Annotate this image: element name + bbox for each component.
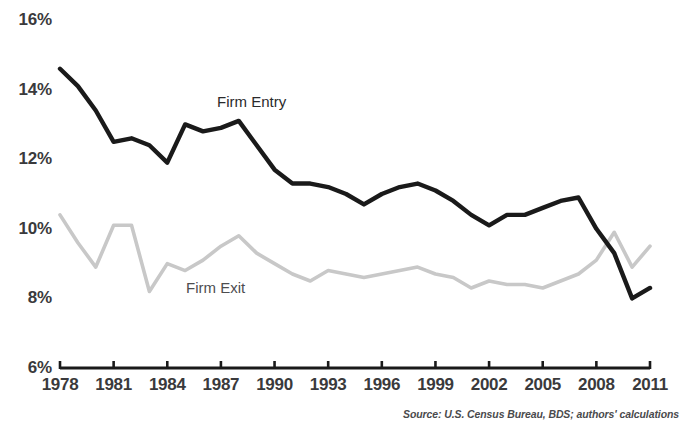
firm-entry-series-label: Firm Entry [217, 94, 286, 109]
source-note: Source: U.S. Census Bureau, BDS; authors… [403, 408, 679, 420]
x-tick-label: 1978 [31, 376, 89, 393]
firm-exit-line [60, 215, 650, 292]
x-tick-label: 2011 [621, 376, 679, 393]
x-tick-label: 2005 [514, 376, 572, 393]
y-tick-label: 8% [4, 289, 52, 306]
x-tick-label: 1990 [246, 376, 304, 393]
y-tick-label: 14% [4, 81, 52, 98]
x-tick-label: 1984 [138, 376, 196, 393]
chart-plot-area [0, 0, 685, 423]
x-tick-label: 1993 [299, 376, 357, 393]
x-tick-label: 1996 [353, 376, 411, 393]
x-axis [60, 361, 650, 369]
x-tick-label: 2002 [460, 376, 518, 393]
x-tick-label: 2008 [567, 376, 625, 393]
x-tick-label: 1999 [406, 376, 464, 393]
y-tick-label: 10% [4, 220, 52, 237]
y-tick-label: 12% [4, 150, 52, 167]
x-tick-label: 1987 [192, 376, 250, 393]
chart-container: 16%14%12%10%8%6% 19781981198419871990199… [0, 0, 685, 423]
firm-entry-line [60, 69, 650, 299]
y-tick-label: 6% [4, 359, 52, 376]
y-tick-label: 16% [4, 11, 52, 28]
firm-exit-series-label: Firm Exit [186, 280, 245, 295]
x-tick-label: 1981 [85, 376, 143, 393]
